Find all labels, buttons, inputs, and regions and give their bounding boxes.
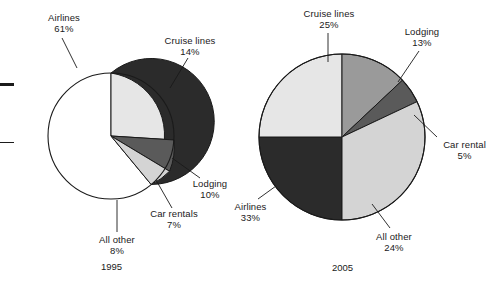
label-1995-cruise-lines-pct: 14% <box>155 46 225 57</box>
label-2005-all-other-pct: 24% <box>366 242 422 253</box>
label-1995-car-rentals-pct: 7% <box>143 219 205 230</box>
label-1995-cruise-lines: Cruise lines 14% <box>155 35 225 57</box>
label-2005-cruise-lines: Cruise lines 25% <box>294 8 364 30</box>
year-label-1995: 1995 <box>101 261 122 272</box>
label-1995-lodging-name: Lodging <box>193 178 228 189</box>
label-1995-airlines: Airlines 61% <box>35 12 93 34</box>
label-1995-lodging: Lodging 10% <box>186 178 234 200</box>
label-1995-car-rentals-name: Car rentals <box>150 208 198 219</box>
label-2005-cruise-lines-name: Cruise lines <box>304 8 355 19</box>
figure-canvas: Airlines 61% Cruise lines 14% Lodging 10… <box>0 0 495 290</box>
slice-2005-cruise-lines[interactable] <box>259 54 342 137</box>
label-2005-all-other-name: All other <box>376 231 412 242</box>
leader-1995-car-rentals <box>156 180 172 208</box>
label-2005-airlines-name: Airlines <box>235 201 267 212</box>
label-1995-airlines-pct: 61% <box>35 23 93 34</box>
label-1995-airlines-name: Airlines <box>48 12 80 23</box>
label-1995-lodging-pct: 10% <box>186 189 234 200</box>
label-2005-all-other: All other 24% <box>366 231 422 253</box>
label-2005-lodging: Lodging 13% <box>398 26 446 48</box>
label-2005-car-rental-pct: 5% <box>436 150 493 161</box>
leader-2005-airlines <box>258 186 276 199</box>
label-2005-lodging-name: Lodging <box>405 26 440 37</box>
label-2005-cruise-lines-pct: 25% <box>294 19 364 30</box>
leader-2005-lodging <box>398 51 419 82</box>
label-2005-airlines: Airlines 33% <box>227 201 274 223</box>
label-1995-all-other-name: All other <box>99 234 135 245</box>
leader-1995-airlines <box>62 38 77 68</box>
label-1995-car-rentals: Car rentals 7% <box>143 208 205 230</box>
label-2005-car-rental: Car rental 5% <box>436 139 493 161</box>
label-2005-car-rental-name: Car rental <box>443 139 486 150</box>
label-2005-lodging-pct: 13% <box>398 37 446 48</box>
year-label-2005: 2005 <box>332 262 353 273</box>
label-2005-airlines-pct: 33% <box>227 212 274 223</box>
label-1995-all-other-pct: 8% <box>89 245 145 256</box>
margin-rule-top <box>0 83 14 86</box>
pie-2005 <box>258 33 437 228</box>
label-1995-cruise-lines-name: Cruise lines <box>165 35 216 46</box>
pie-1995 <box>48 38 214 232</box>
label-1995-all-other: All other 8% <box>89 234 145 256</box>
margin-rule-bottom <box>0 142 14 143</box>
